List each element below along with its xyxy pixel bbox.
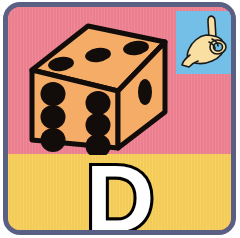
letter-glyph: D (85, 154, 154, 235)
dice-illustration (26, 20, 171, 155)
flashcard: D (0, 0, 240, 238)
die-pips-right (138, 79, 152, 105)
card-frame: D (3, 2, 236, 235)
sign-language-panel (176, 11, 236, 74)
letter-display: D (8, 154, 231, 235)
